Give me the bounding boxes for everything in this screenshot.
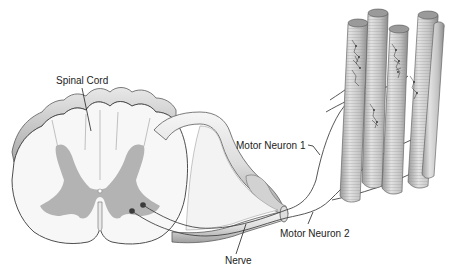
spinal-cord-diagram bbox=[0, 0, 453, 272]
label-motor-neuron-2: Motor Neuron 2 bbox=[280, 229, 349, 239]
motor-neuron-2-leader bbox=[308, 212, 313, 224]
spinal-cord-cross-section bbox=[12, 88, 188, 245]
diagram-canvas: Spinal Cord Motor Neuron 1 Motor Neuron … bbox=[0, 0, 453, 272]
label-nerve: Nerve bbox=[225, 256, 252, 266]
muscle-fibers bbox=[340, 9, 444, 202]
label-motor-neuron-1: Motor Neuron 1 bbox=[236, 141, 305, 151]
label-spinal-cord: Spinal Cord bbox=[56, 76, 108, 86]
motor-neuron-1-leader bbox=[308, 145, 320, 155]
